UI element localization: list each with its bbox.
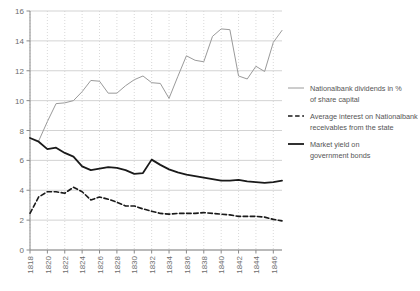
legend-label-market_yield: Market yield on xyxy=(310,140,359,149)
legend-label-interest: Average interest on Nationalbank xyxy=(310,112,418,121)
x-tick-label: 1834 xyxy=(165,255,174,273)
y-tick-label: 10 xyxy=(15,97,24,106)
x-tick-label: 1826 xyxy=(96,255,105,273)
y-tick-label: 16 xyxy=(15,7,24,16)
y-tick-label: 6 xyxy=(20,156,25,165)
legend-label-dividends-line2: of share capital xyxy=(310,95,360,104)
y-tick-label: 4 xyxy=(20,186,25,195)
x-tick-label: 1828 xyxy=(113,255,122,273)
x-tick-label: 1832 xyxy=(148,255,157,273)
x-tick-label: 1842 xyxy=(235,255,244,273)
line-chart: 0246810121416 18181820182218241826182818… xyxy=(0,0,420,291)
legend-label-market_yield-line2: government bonds xyxy=(310,151,371,160)
y-tick-label: 8 xyxy=(20,127,25,136)
y-tick-label: 14 xyxy=(15,37,24,46)
legend-label-interest-line2: receivables from the state xyxy=(310,123,394,132)
y-tick-label: 0 xyxy=(20,246,25,255)
y-tick-label: 12 xyxy=(15,67,24,76)
x-tick-label: 1840 xyxy=(217,255,226,273)
x-tick-label: 1838 xyxy=(200,255,209,273)
y-tick-label: 2 xyxy=(20,216,25,225)
x-tick-label: 1836 xyxy=(183,255,192,273)
x-tick-label: 1820 xyxy=(44,255,53,273)
x-tick-label: 1846 xyxy=(270,255,279,273)
legend-label-dividends: Nationalbank dividends in % xyxy=(310,84,402,93)
x-tick-label: 1844 xyxy=(252,255,261,273)
x-tick-label: 1822 xyxy=(61,255,70,273)
x-tick-label: 1818 xyxy=(26,255,35,273)
x-tick-label: 1830 xyxy=(130,255,139,273)
chart-container: 0246810121416 18181820182218241826182818… xyxy=(0,0,420,291)
x-tick-label: 1824 xyxy=(78,255,87,273)
